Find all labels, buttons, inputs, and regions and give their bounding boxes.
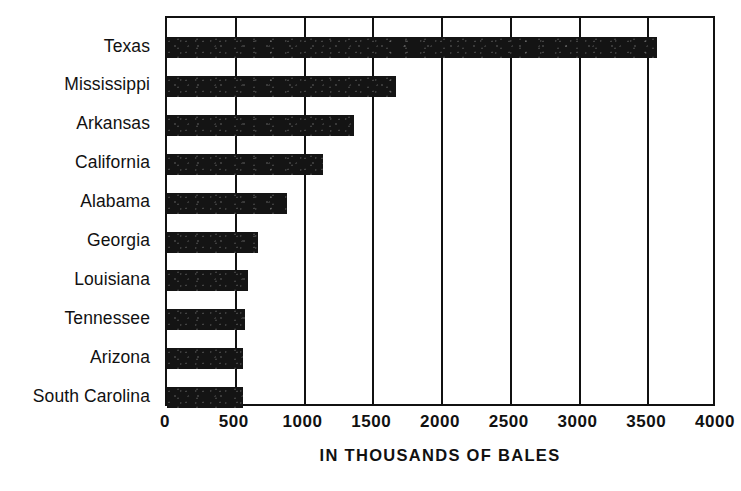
x-axis-tick-labels: 05001000150020002500300035004000 [165, 412, 715, 438]
category-label: Mississippi [64, 74, 150, 95]
x-tick-label: 2500 [489, 412, 529, 432]
plot-area [165, 16, 715, 406]
category-label: California [75, 152, 150, 173]
category-label: Tennessee [64, 307, 150, 328]
bar [167, 348, 243, 369]
x-tick-label: 1500 [351, 412, 391, 432]
bar [167, 115, 354, 136]
category-label: Georgia [87, 230, 150, 251]
category-axis-labels: TexasMississippiArkansasCaliforniaAlabam… [0, 16, 158, 406]
x-tick-label: 3500 [626, 412, 666, 432]
chart-page: TexasMississippiArkansasCaliforniaAlabam… [0, 0, 741, 491]
bar [167, 154, 323, 175]
category-label: Arizona [90, 346, 150, 367]
x-axis-title: IN THOUSANDS OF BALES [165, 446, 715, 465]
bar [167, 37, 657, 58]
bar-series [167, 18, 713, 404]
bar [167, 387, 243, 408]
category-label: Alabama [80, 191, 150, 212]
x-tick-label: 1000 [283, 412, 323, 432]
x-tick-label: 3000 [558, 412, 598, 432]
x-tick-label: 0 [160, 412, 170, 432]
category-label: South Carolina [33, 385, 150, 406]
category-label: Texas [104, 35, 150, 56]
x-tick-label: 2000 [420, 412, 460, 432]
x-tick-label: 500 [219, 412, 249, 432]
category-label: Louisiana [74, 268, 150, 289]
x-tick-label: 4000 [695, 412, 735, 432]
category-label: Arkansas [76, 113, 150, 134]
bar [167, 270, 248, 291]
bar [167, 232, 258, 253]
bar [167, 76, 396, 97]
bar [167, 193, 287, 214]
bar [167, 309, 245, 330]
